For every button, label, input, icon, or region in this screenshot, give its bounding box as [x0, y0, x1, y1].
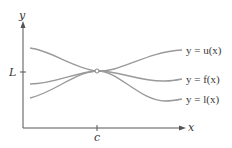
y-axis-label: y	[18, 9, 26, 22]
curve-u	[30, 48, 182, 71]
y-tick-label: L	[8, 66, 16, 79]
curve-u-label: y = u(x)	[186, 44, 222, 57]
limit-point-open-circle-icon	[95, 69, 99, 73]
curve-l-label: y = l(x)	[186, 93, 219, 106]
curve-l	[30, 71, 182, 101]
x-axis-arrow-icon	[179, 126, 186, 131]
x-tick-label: c	[94, 131, 100, 144]
x-axis-label: x	[188, 121, 195, 134]
curve-f-label: y = f(x)	[186, 73, 220, 86]
x-axis: x	[23, 121, 195, 134]
y-axis-arrow-icon	[21, 21, 26, 28]
y-axis: y	[18, 9, 26, 128]
